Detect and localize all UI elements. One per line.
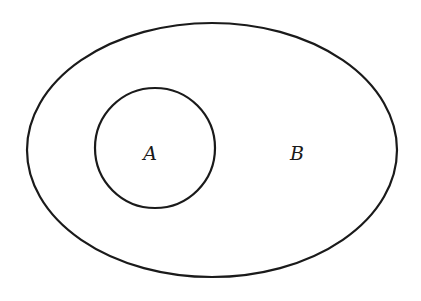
- set-a-label: A: [141, 142, 157, 164]
- set-b-label: B: [289, 142, 304, 164]
- venn-diagram: A B: [0, 0, 421, 301]
- set-b-ellipse: [27, 23, 397, 277]
